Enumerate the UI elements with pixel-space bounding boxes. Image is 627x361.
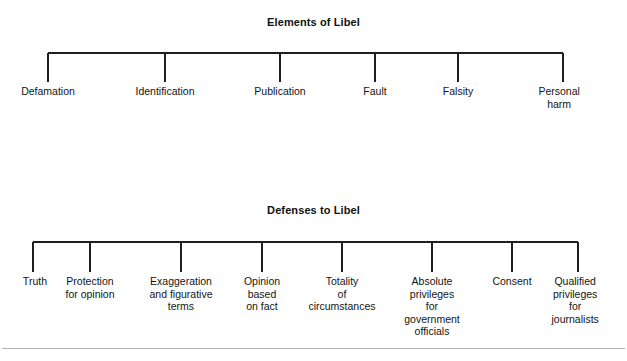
leaf-label: Personal harm	[527, 85, 591, 110]
leaf-label: Truth	[23, 275, 47, 288]
leaf-label: Identification	[136, 85, 195, 98]
leaf-label: Exaggeration and figurative terms	[149, 275, 212, 313]
leaf-label: Qualified privileges for journalists	[552, 275, 599, 325]
diagram-page: Elements of Libel Defenses to Libel Defa…	[0, 0, 627, 361]
leaf-label: Publication	[254, 85, 305, 98]
leaf-label: Fault	[363, 85, 386, 98]
leaf-label: Falsity	[443, 85, 473, 98]
defenses-to-libel-title: Defenses to Libel	[0, 204, 627, 216]
leaf-label: Defamation	[21, 85, 75, 98]
leaf-label: Protection for opinion	[65, 275, 114, 300]
leaf-label: Totality of circumstances	[308, 275, 375, 313]
page-bottom-rule	[2, 348, 625, 349]
leaf-label: Consent	[492, 275, 531, 288]
leaf-label: Absolute privileges for government offic…	[404, 275, 459, 338]
leaf-label: Opinion based on fact	[244, 275, 280, 313]
elements-of-libel-title: Elements of Libel	[0, 16, 627, 28]
